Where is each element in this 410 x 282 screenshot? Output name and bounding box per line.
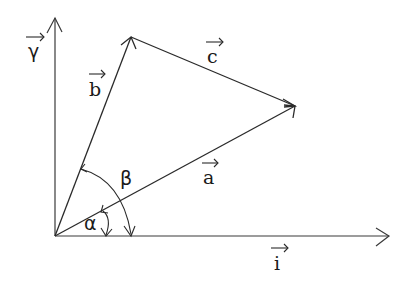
beta-label: β	[120, 167, 132, 189]
x-axis-arrowhead-icon	[376, 228, 389, 246]
diagram-canvas: γ b c a i β α	[0, 0, 410, 282]
label-c: c	[206, 38, 223, 67]
vector-diagram: γ b c a i β α	[0, 0, 410, 282]
y-axis	[47, 18, 62, 236]
b-label: b	[89, 78, 101, 100]
label-i: i	[271, 244, 288, 274]
gamma-label: γ	[28, 40, 39, 62]
alpha-label: α	[84, 212, 97, 234]
a-label: a	[203, 166, 214, 188]
label-b: b	[89, 70, 105, 100]
label-gamma: γ	[26, 33, 44, 62]
c-label: c	[207, 45, 218, 67]
i-label: i	[274, 252, 280, 274]
x-axis	[55, 228, 389, 246]
label-a: a	[202, 159, 218, 188]
vector-b	[55, 37, 136, 236]
